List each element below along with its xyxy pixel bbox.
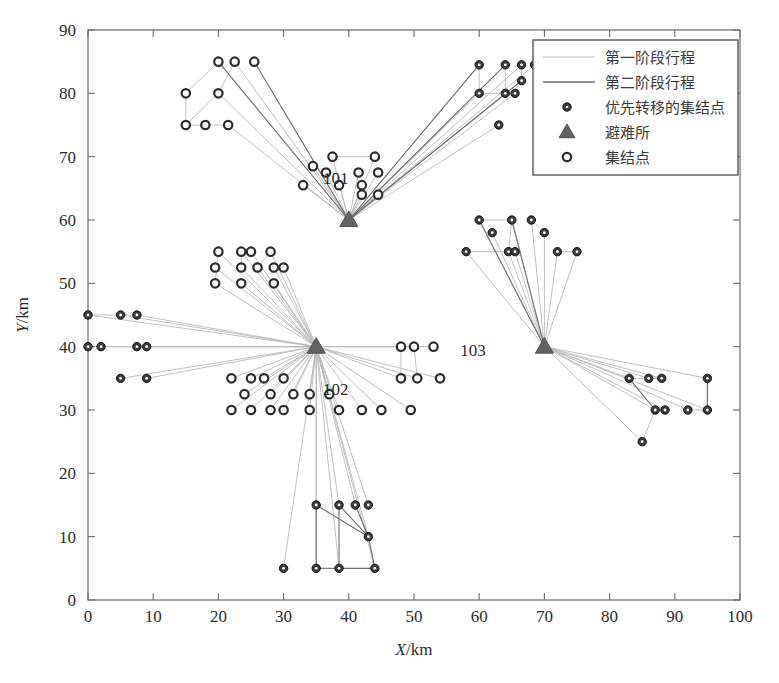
y-tick-label: 30 bbox=[59, 401, 76, 420]
legend-label: 第一阶段行程 bbox=[605, 49, 695, 67]
assembly-node bbox=[237, 279, 245, 287]
plot-canvas: 0102030405060708090100010203040506070809… bbox=[0, 0, 779, 683]
priority-node-center bbox=[100, 345, 103, 348]
priority-node-center bbox=[367, 535, 370, 538]
assembly-node bbox=[211, 263, 219, 271]
x-tick-label: 80 bbox=[601, 607, 618, 626]
stage2-edge bbox=[355, 505, 368, 537]
stage1-edge bbox=[186, 62, 219, 94]
priority-node-center bbox=[514, 92, 517, 95]
assembly-node bbox=[289, 390, 297, 398]
assembly-node bbox=[247, 374, 255, 382]
stage1-edge bbox=[186, 93, 219, 125]
assembly-node bbox=[214, 89, 222, 97]
stage1-edge bbox=[316, 347, 401, 379]
assembly-node bbox=[279, 374, 287, 382]
assembly-node bbox=[227, 406, 235, 414]
stage2-edge bbox=[349, 65, 505, 220]
assembly-node bbox=[335, 406, 343, 414]
x-tick-label: 50 bbox=[406, 607, 423, 626]
stage1-edge bbox=[544, 347, 661, 379]
stage1-edge bbox=[509, 252, 545, 347]
priority-node-center bbox=[543, 231, 546, 234]
assembly-node bbox=[253, 263, 261, 271]
priority-node-center bbox=[315, 504, 318, 507]
priority-node-center bbox=[136, 345, 139, 348]
assembly-node bbox=[270, 263, 278, 271]
stage1-edge bbox=[509, 220, 512, 252]
assembly-node bbox=[279, 406, 287, 414]
y-tick-label: 40 bbox=[59, 338, 76, 357]
priority-node-center bbox=[628, 377, 631, 380]
stage2-edge bbox=[479, 220, 544, 347]
assembly-node bbox=[270, 279, 278, 287]
x-tick-label: 0 bbox=[84, 607, 93, 626]
assembly-node bbox=[374, 168, 382, 176]
assembly-node bbox=[358, 406, 366, 414]
stage1-edge bbox=[349, 125, 499, 220]
assembly-node bbox=[250, 57, 258, 65]
shelter-label-101: 101 bbox=[323, 169, 349, 188]
y-tick-label: 20 bbox=[59, 464, 76, 483]
priority-node-center bbox=[373, 567, 376, 570]
stage2-edge bbox=[512, 220, 545, 347]
priority-node-center bbox=[504, 63, 507, 66]
priority-node-center bbox=[354, 504, 357, 507]
priority-node-center bbox=[497, 124, 500, 127]
scatter-plot-figure: 0102030405060708090100010203040506070809… bbox=[0, 0, 779, 683]
priority-node-center bbox=[520, 79, 523, 82]
x-tick-label: 10 bbox=[145, 607, 162, 626]
assembly-node bbox=[358, 190, 366, 198]
priority-node-center bbox=[491, 231, 494, 234]
assembly-node bbox=[227, 374, 235, 382]
stage1-edge bbox=[316, 347, 440, 379]
x-tick-label: 20 bbox=[210, 607, 227, 626]
legend-label: 集结点 bbox=[605, 149, 650, 167]
stage1-edge bbox=[121, 347, 317, 379]
priority-node-center bbox=[145, 377, 148, 380]
priority-node-center bbox=[465, 250, 468, 253]
priority-node-center bbox=[530, 219, 533, 222]
assembly-node bbox=[436, 374, 444, 382]
priority-node-center bbox=[641, 440, 644, 443]
assembly-node bbox=[374, 190, 382, 198]
assembly-node bbox=[299, 181, 307, 189]
assembly-node bbox=[247, 406, 255, 414]
assembly-node bbox=[231, 57, 239, 65]
y-tick-label: 0 bbox=[68, 591, 77, 610]
assembly-node bbox=[240, 390, 248, 398]
stage1-edge bbox=[271, 347, 317, 410]
assembly-node bbox=[358, 181, 366, 189]
x-axis-title: X/km bbox=[395, 640, 433, 659]
priority-node-center bbox=[520, 63, 523, 66]
priority-node-center bbox=[367, 504, 370, 507]
y-tick-label: 50 bbox=[59, 274, 76, 293]
stage1-edge bbox=[544, 347, 707, 379]
node-group-hollow-circle bbox=[182, 57, 445, 414]
stage1-edge bbox=[544, 252, 557, 347]
assembly-node bbox=[224, 121, 232, 129]
assembly-node bbox=[237, 263, 245, 271]
assembly-node bbox=[266, 247, 274, 255]
assembly-node bbox=[305, 406, 313, 414]
y-tick-label: 60 bbox=[59, 211, 76, 230]
priority-node-center bbox=[136, 314, 139, 317]
stage1-edge bbox=[531, 220, 544, 347]
assembly-node bbox=[237, 247, 245, 255]
stage2-edge bbox=[218, 62, 348, 220]
assembly-node bbox=[410, 342, 418, 350]
legend-label: 第二阶段行程 bbox=[605, 74, 695, 92]
assembly-node bbox=[247, 247, 255, 255]
priority-node-center bbox=[504, 92, 507, 95]
assembly-node bbox=[182, 89, 190, 97]
shelter-label-103: 103 bbox=[460, 341, 486, 360]
stage1-edge bbox=[137, 315, 316, 347]
priority-node-center bbox=[706, 409, 709, 412]
stage1-edge bbox=[316, 347, 381, 410]
legend: 第一阶段行程第二阶段行程优先转移的集结点避难所集结点 bbox=[533, 40, 738, 175]
stage1-edge bbox=[642, 410, 655, 442]
priority-node-center bbox=[87, 345, 90, 348]
stage2-edge bbox=[349, 81, 522, 220]
assembly-node bbox=[309, 162, 317, 170]
priority-node-center bbox=[686, 409, 689, 412]
